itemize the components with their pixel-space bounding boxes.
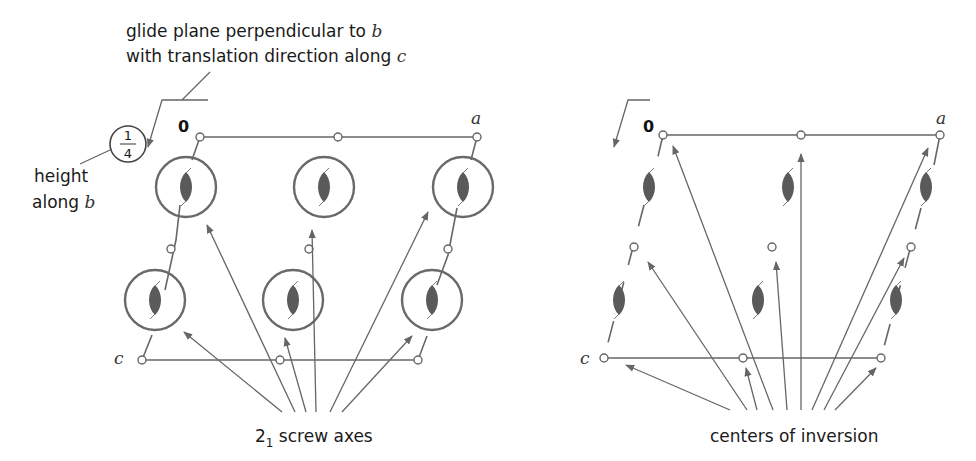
svg-text:c: c — [114, 348, 124, 368]
svg-text:a: a — [936, 108, 946, 128]
right-diagram-inversion-centers: 0 a c centers of inversion — [580, 100, 946, 446]
svg-text:0: 0 — [178, 117, 189, 136]
svg-text:glide plane perpendicular to b: glide plane perpendicular to b — [126, 21, 382, 41]
svg-text:1: 1 — [124, 128, 132, 143]
glide-plane-annotation: glide plane perpendicular to b with tran… — [126, 21, 407, 147]
svg-text:21 screw axes: 21 screw axes — [255, 426, 373, 450]
svg-text:centers of inversion: centers of inversion — [710, 426, 879, 446]
svg-text:4: 4 — [124, 146, 132, 161]
svg-text:height: height — [34, 166, 89, 186]
svg-text:along b: along b — [32, 192, 95, 212]
left-diagram-screw-axes: 0 a c 21 screw axes — [114, 108, 493, 450]
svg-text:with translation direction alo: with translation direction along c — [126, 46, 407, 66]
height-marker: 1 4 height along b — [32, 126, 146, 212]
svg-text:0: 0 — [643, 117, 654, 136]
svg-text:a: a — [471, 108, 481, 128]
svg-text:c: c — [580, 348, 590, 368]
space-group-diagram: glide plane perpendicular to b with tran… — [0, 0, 976, 461]
